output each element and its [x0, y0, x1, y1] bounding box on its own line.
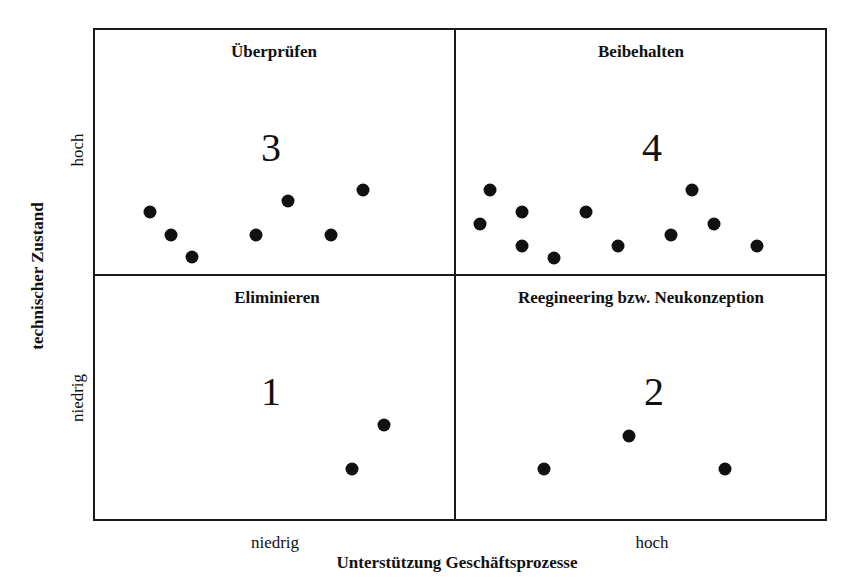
data-point-dot: [686, 184, 699, 197]
data-point-dot: [548, 252, 561, 265]
x-tick-high: hoch: [635, 533, 668, 553]
quadrant-title-q2: Reegineering bzw. Neukonzeption: [518, 288, 764, 308]
data-point-dot: [538, 463, 551, 476]
quadrant-number-q1: 1: [261, 372, 281, 412]
y-tick-low: niedrig: [68, 374, 88, 422]
data-point-dot: [516, 240, 529, 253]
data-point-dot: [250, 229, 263, 242]
y-tick-high: hoch: [68, 133, 88, 166]
data-point-dot: [165, 229, 178, 242]
data-point-dot: [516, 206, 529, 219]
quadrant-title-q1: Eliminieren: [234, 288, 320, 308]
quadrant-title-q3: Überprüfen: [231, 42, 317, 62]
data-point-dot: [623, 430, 636, 443]
data-point-dot: [325, 229, 338, 242]
data-point-dot: [751, 240, 764, 253]
quadrant-number-q4: 4: [642, 128, 662, 168]
quadrant-number-q2: 2: [644, 372, 664, 412]
data-point-dot: [474, 218, 487, 231]
data-point-dot: [378, 419, 391, 432]
data-point-dot: [346, 463, 359, 476]
data-point-dot: [357, 184, 370, 197]
quadrant-number-q3: 3: [261, 128, 281, 168]
x-axis-title: Unterstützung Geschäftsprozesse: [337, 553, 578, 573]
data-point-dot: [719, 463, 732, 476]
data-point-dot: [612, 240, 625, 253]
data-point-dot: [186, 251, 199, 264]
data-point-dot: [665, 229, 678, 242]
data-point-dot: [282, 195, 295, 208]
horizontal-divider: [94, 274, 825, 276]
data-point-dot: [580, 206, 593, 219]
data-point-dot: [144, 206, 157, 219]
y-axis-title: technischer Zustand: [28, 202, 48, 350]
data-point-dot: [708, 218, 721, 231]
quadrant-title-q4: Beibehalten: [598, 42, 684, 62]
data-point-dot: [484, 184, 497, 197]
x-tick-low: niedrig: [251, 533, 299, 553]
